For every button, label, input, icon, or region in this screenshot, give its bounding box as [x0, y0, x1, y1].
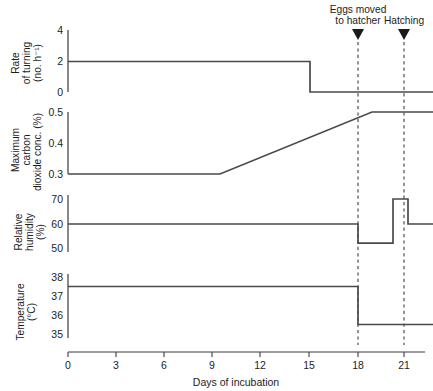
event-arrow-eggs-moved-icon: [352, 29, 364, 40]
event-label-eggs-moved-line2: to hatcher: [335, 15, 381, 26]
panel-temperature-series: [68, 287, 433, 325]
figure-canvas: Eggs moved to hatcher Hatching Rate of t…: [0, 0, 433, 391]
incubation-conditions-figure: Eggs moved to hatcher Hatching Rate of t…: [0, 0, 433, 391]
panel-relative-humidity-ylabel-line1: Relative: [13, 213, 24, 250]
panel-relative-humidity-ytick-70: 70: [51, 193, 63, 205]
panel-temperature-ytick-35: 35: [51, 328, 63, 340]
x-tick-label-0: 0: [65, 359, 71, 371]
x-tick-label-9: 9: [209, 359, 215, 371]
panel-temperature: Temperature (°C) 38 37 36 35: [15, 271, 433, 341]
x-axis-title: Days of incubation: [193, 376, 280, 388]
event-annotations: Eggs moved to hatcher Hatching: [330, 4, 425, 345]
x-axis: 0 3 6 9 12 15 18 21 Days of incubation: [65, 352, 425, 388]
panel-temperature-ylabel-line1: Temperature: [15, 283, 26, 341]
panel-carbon-dioxide-ylabel-line2: carbon: [21, 134, 32, 165]
panel-temperature-ytick-36: 36: [51, 309, 63, 321]
panel-carbon-dioxide-ylabel-line3: dioxide conc. (%): [32, 113, 43, 191]
x-tick-label-6: 6: [161, 359, 167, 371]
panel-relative-humidity-ytick-50: 50: [51, 242, 63, 254]
panel-carbon-dioxide-ytick-05: 0.5: [48, 106, 63, 118]
panel-rate-of-turning-ytick-2: 2: [57, 55, 63, 67]
x-tick-label-12: 12: [254, 359, 266, 371]
event-label-eggs-moved-line1: Eggs moved: [330, 4, 387, 15]
panel-relative-humidity: Relative humidity (%) 70 60 50: [13, 193, 433, 254]
panel-relative-humidity-ylabel-line3: (%): [35, 224, 46, 240]
panel-temperature-ytick-38: 38: [51, 271, 63, 283]
x-tick-label-18: 18: [352, 359, 364, 371]
x-tick-label-15: 15: [303, 359, 315, 371]
panel-rate-of-turning-ylabel-line1: Rate: [10, 52, 21, 74]
panel-relative-humidity-ylabel-line2: humidity: [24, 212, 35, 251]
panel-relative-humidity-series: [68, 199, 433, 243]
panel-carbon-dioxide: Maximum carbon dioxide conc. (%) 0.5 0.4…: [10, 106, 433, 191]
panel-carbon-dioxide-ylabel-line1: Maximum: [10, 128, 21, 172]
panel-carbon-dioxide-ytick-04: 0.4: [48, 137, 63, 149]
panel-rate-of-turning: Rate of turning (no. h⁻¹) 4 2 0: [10, 24, 433, 98]
panel-rate-of-turning-ytick-0: 0: [57, 86, 63, 98]
panel-rate-of-turning-ytick-4: 4: [57, 24, 63, 36]
panel-temperature-ytick-37: 37: [51, 290, 63, 302]
x-tick-label-21: 21: [398, 359, 410, 371]
panel-relative-humidity-ytick-60: 60: [51, 218, 63, 230]
event-arrow-hatching-icon: [398, 29, 410, 40]
event-label-hatching: Hatching: [384, 15, 425, 26]
panel-temperature-ylabel-line2: (°C): [26, 303, 37, 321]
panel-carbon-dioxide-ytick-03: 0.3: [48, 168, 63, 180]
x-tick-label-3: 3: [113, 359, 119, 371]
panel-rate-of-turning-series: [68, 62, 433, 93]
panel-rate-of-turning-ylabel-line2: of turning: [21, 41, 32, 84]
panel-rate-of-turning-ylabel-line3: (no. h⁻¹): [32, 44, 43, 82]
panel-carbon-dioxide-series: [68, 112, 433, 174]
